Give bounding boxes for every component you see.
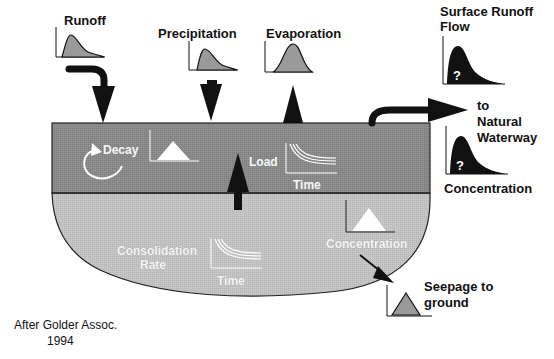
to-label: to [477, 98, 489, 113]
surface-runoff-flow-label-1: Surface Runoff [440, 4, 534, 19]
concentration-lower-label: Concentration [326, 237, 407, 251]
unknown-marker-flow: ? [453, 68, 461, 83]
time-upper-label: Time [293, 178, 321, 192]
precipitation-label: Precipitation [158, 26, 237, 41]
precipitation-arrow-icon [200, 80, 222, 121]
runoff-arrow-icon [69, 69, 115, 123]
credit-line-2: 1994 [47, 334, 74, 348]
concentration-right-label: Concentration [444, 181, 532, 196]
outflow-arrow-icon [372, 98, 468, 123]
seepage-label-2: ground [424, 295, 469, 310]
evaporation-label: Evaporation [266, 26, 341, 41]
runoff-hydrograph [56, 27, 105, 57]
evaporation-hydrograph [265, 41, 313, 72]
surface-runoff-flow-chart: ? [443, 36, 505, 84]
consolidation-label-1: Consolidation [117, 244, 197, 258]
water-balance-diagram: Runoff Precipitation Evaporation Surface… [0, 0, 554, 359]
evaporation-arrow-icon [283, 85, 303, 123]
precipitation-hydrograph [189, 41, 238, 70]
seepage-label-1: Seepage to [424, 279, 493, 294]
surface-runoff-flow-label-2: Flow [440, 19, 470, 34]
credit-line-1: After Golder Assoc. [14, 318, 117, 332]
runoff-label: Runoff [64, 13, 107, 28]
load-label: Load [249, 155, 278, 169]
unknown-marker-concentration: ? [456, 158, 464, 173]
waterway-label: Waterway [477, 130, 538, 145]
consolidation-label-2: Rate [140, 258, 166, 272]
natural-label: Natural [477, 114, 522, 129]
decay-label: Decay [103, 143, 139, 157]
time-lower-label: Time [217, 274, 245, 288]
